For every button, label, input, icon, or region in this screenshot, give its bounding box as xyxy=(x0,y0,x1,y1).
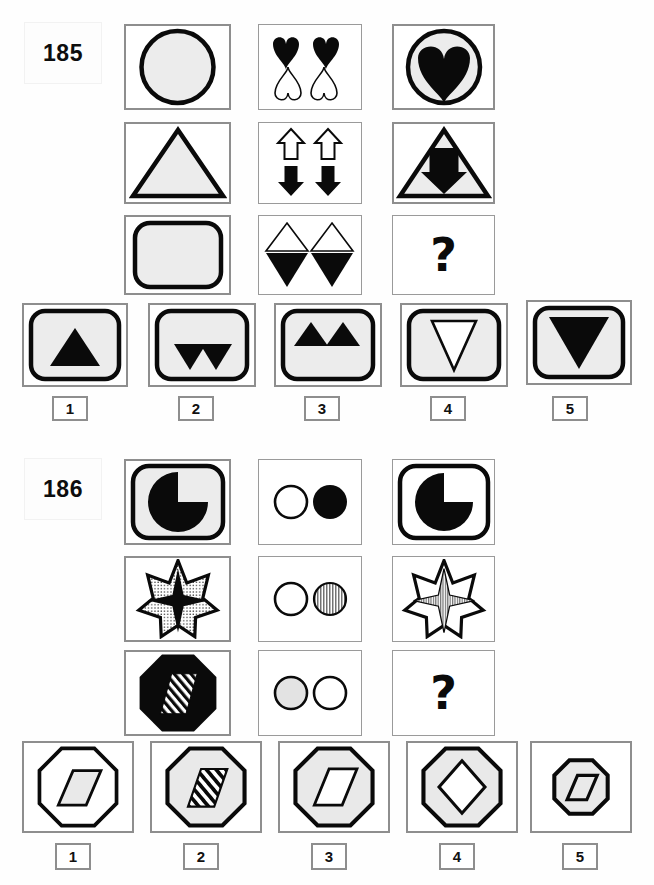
puzzle-185-number-text: 185 xyxy=(43,40,83,67)
p185-option-3[interactable] xyxy=(274,303,382,387)
option-1-number-text: 1 xyxy=(69,848,77,865)
circle-with-heart-shape xyxy=(398,27,490,107)
p186-option-4[interactable] xyxy=(406,741,518,833)
p186-cell-r2c3[interactable] xyxy=(392,556,495,642)
circles-pair-shape xyxy=(263,472,357,532)
option-3-shape xyxy=(280,308,376,382)
p185-option-1-number[interactable]: 1 xyxy=(52,396,88,421)
p186-cell-r1c3[interactable] xyxy=(392,459,495,545)
hearts-pair-shape xyxy=(262,27,358,107)
p185-option-4-number[interactable]: 4 xyxy=(430,396,466,421)
p186-cell-r3c1[interactable] xyxy=(124,650,231,736)
p185-cell-r3c3-answer-slot[interactable]: ? xyxy=(392,215,495,295)
p186-cell-r3c3-answer-slot[interactable]: ? xyxy=(392,650,495,736)
p185-cell-r1c2[interactable] xyxy=(258,24,362,110)
option-5-shape xyxy=(532,305,626,380)
p185-cell-r1c1[interactable] xyxy=(124,24,231,110)
p185-option-2[interactable] xyxy=(148,303,256,387)
circle-shape xyxy=(130,27,225,107)
p186-option-4-number[interactable]: 4 xyxy=(439,843,475,870)
p185-cell-r3c2[interactable] xyxy=(258,215,362,295)
p186-option-5[interactable] xyxy=(530,741,632,833)
circles-pair-hatched-shape xyxy=(263,569,357,629)
p185-option-1[interactable] xyxy=(22,303,128,387)
p186-cell-r1c1[interactable] xyxy=(124,459,231,545)
option-2-shape xyxy=(154,308,250,382)
option-1-number-text: 1 xyxy=(66,400,74,417)
question-mark: ? xyxy=(430,670,457,716)
p185-option-5[interactable] xyxy=(526,300,632,385)
option-3-number-text: 3 xyxy=(318,400,326,417)
p185-cell-r2c2[interactable] xyxy=(258,122,362,204)
p185-option-5-number[interactable]: 5 xyxy=(552,396,588,421)
seven-point-star-dotted-shape xyxy=(129,559,227,639)
p186-option-3[interactable] xyxy=(278,741,390,833)
option-1-shape xyxy=(28,746,128,828)
rounded-square-shape xyxy=(132,220,224,290)
option-3-shape xyxy=(284,746,384,828)
triangle-with-down-arrow-shape xyxy=(396,126,492,200)
p186-cell-r2c2[interactable] xyxy=(258,556,362,642)
p186-cell-r2c1[interactable] xyxy=(124,556,231,642)
black-octagon-with-striped-parallelogram-shape xyxy=(130,653,226,733)
p186-option-2-number[interactable]: 2 xyxy=(183,843,219,870)
option-2-number-text: 2 xyxy=(197,848,205,865)
p185-cell-r3c1[interactable] xyxy=(124,215,231,295)
option-2-shape xyxy=(156,746,256,828)
p185-cell-r1c3[interactable] xyxy=(392,24,495,110)
option-4-shape xyxy=(406,308,502,382)
option-5-shape xyxy=(550,758,612,816)
option-4-shape xyxy=(412,746,512,828)
puzzle-185-number-label: 185 xyxy=(24,22,102,84)
p186-option-5-number[interactable]: 5 xyxy=(562,843,598,870)
seven-point-star-white-shape xyxy=(396,559,492,639)
p185-option-2-number[interactable]: 2 xyxy=(178,396,214,421)
puzzle-186-number-label: 186 xyxy=(24,458,102,520)
option-4-number-text: 4 xyxy=(444,400,452,417)
test-page: 185 ? xyxy=(0,0,654,885)
option-2-number-text: 2 xyxy=(192,400,200,417)
option-5-number-text: 5 xyxy=(576,848,584,865)
p186-option-1-number[interactable]: 1 xyxy=(55,843,91,870)
option-1-shape xyxy=(28,308,122,382)
puzzle-186-number-text: 186 xyxy=(43,476,83,503)
p185-option-4[interactable] xyxy=(400,303,508,387)
arrows-up-down-shape xyxy=(264,126,356,200)
option-3-number-text: 3 xyxy=(325,848,333,865)
triangles-pair-shape xyxy=(263,219,357,291)
p185-cell-r2c1[interactable] xyxy=(124,122,231,204)
p186-option-1[interactable] xyxy=(22,741,134,833)
pacman-in-rounded-square-shape xyxy=(397,463,491,541)
p185-option-3-number[interactable]: 3 xyxy=(304,396,340,421)
p185-cell-r2c3[interactable] xyxy=(392,122,495,204)
p186-option-3-number[interactable]: 3 xyxy=(311,843,347,870)
triangle-up-shape xyxy=(129,126,227,200)
option-4-number-text: 4 xyxy=(453,848,461,865)
p186-option-2[interactable] xyxy=(150,741,262,833)
p186-cell-r1c2[interactable] xyxy=(258,459,362,545)
question-mark: ? xyxy=(430,232,457,278)
circles-pair-light-shape xyxy=(263,663,357,723)
p186-cell-r3c2[interactable] xyxy=(258,650,362,736)
pacman-in-rounded-square-shape xyxy=(130,463,226,541)
option-5-number-text: 5 xyxy=(566,400,574,417)
